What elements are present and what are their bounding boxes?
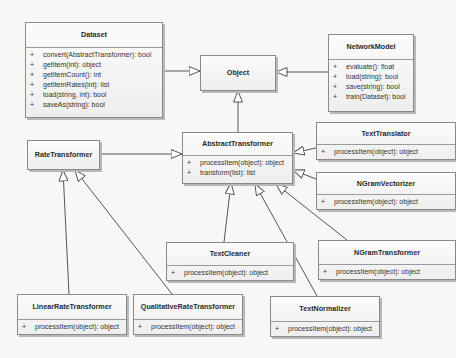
method: +processItem(object): object <box>275 324 379 334</box>
method: +processItem(object): object <box>171 268 293 278</box>
method: +load(string, int): bool <box>30 90 162 100</box>
method: +processItem(object): object <box>321 197 455 207</box>
class-name: Object <box>201 56 275 90</box>
method: +processItem(object): object <box>321 147 455 157</box>
method: +train(Dataset): bool <box>333 92 413 102</box>
class-members: +processItem(object): object <box>18 319 126 334</box>
method: +processItem(object): object <box>323 267 455 277</box>
edge-texttranslator-abstracttransformer <box>293 148 316 153</box>
class-qualitative-rate-transformer[interactable]: QualitativeRateTransformer +processItem(… <box>133 294 243 335</box>
class-rate-transformer[interactable]: RateTransformer <box>27 140 100 170</box>
method: +processItem(object): object <box>22 322 126 332</box>
method: +getItem(int): object <box>30 60 162 70</box>
class-members: +convert(AbstractTransformer): bool +get… <box>26 47 162 112</box>
class-dataset[interactable]: Dataset +convert(AbstractTransformer): b… <box>25 22 163 118</box>
class-ngram-vectorizer[interactable]: NGramVectorizer +processItem(object): ob… <box>316 172 456 210</box>
class-name: NGramVectorizer <box>317 173 455 194</box>
class-members: +processItem(object): object <box>317 144 455 159</box>
edge-linearrate-ratetransformer <box>63 170 69 294</box>
class-name: LinearRateTransformer <box>18 295 126 319</box>
class-object[interactable]: Object <box>200 55 276 91</box>
method: +transform(list): list <box>187 168 292 178</box>
class-name: NGramTransformer <box>319 241 455 264</box>
class-name: NetworkModel <box>329 35 413 59</box>
method: +getItemRates(int): list <box>30 80 162 90</box>
class-text-normalizer[interactable]: TextNormalizer +processItem(object): obj… <box>270 296 380 337</box>
method: +saveAs(string): bool <box>30 100 162 110</box>
method: +save(string): bool <box>333 82 413 92</box>
method: +evaluate(): float <box>333 62 413 72</box>
method: +load(string): bool <box>333 72 413 82</box>
class-name: Dataset <box>26 23 162 47</box>
class-members: +evaluate(): float +load(string): bool +… <box>329 59 413 104</box>
method: +getItemCount(): int <box>30 70 162 80</box>
class-linear-rate-transformer[interactable]: LinearRateTransformer +processItem(objec… <box>17 294 127 335</box>
class-text-cleaner[interactable]: TextCleaner +processItem(object): object <box>166 242 294 281</box>
edge-textcleaner-abstracttransformer <box>224 183 231 242</box>
class-members: +processItem(object): object <box>319 264 455 279</box>
class-name: TextCleaner <box>167 243 293 265</box>
method: +convert(AbstractTransformer): bool <box>30 50 162 60</box>
class-name: RateTransformer <box>28 141 99 169</box>
edge-ngramvectorizer-abstracttransformer <box>293 170 316 179</box>
class-members: +processItem(object): object <box>317 194 455 209</box>
class-name: AbstractTransformer <box>183 133 292 155</box>
method: +processItem(object): object <box>138 322 242 332</box>
method: +processItem(object): object <box>187 158 292 168</box>
class-name: TextTranslator <box>317 123 455 144</box>
class-members: +processItem(object): object <box>134 319 242 334</box>
class-ngram-transformer[interactable]: NGramTransformer +processItem(object): o… <box>318 240 456 280</box>
edge-qualitativerate-ratetransformer <box>75 170 172 294</box>
class-members: +processItem(object): object +transform(… <box>183 155 292 180</box>
class-abstract-transformer[interactable]: AbstractTransformer +processItem(object)… <box>182 132 293 184</box>
class-name: QualitativeRateTransformer <box>134 295 242 319</box>
class-members: +processItem(object): object <box>167 265 293 280</box>
class-text-translator[interactable]: TextTranslator +processItem(object): obj… <box>316 122 456 160</box>
class-network-model[interactable]: NetworkModel +evaluate(): float +load(st… <box>328 34 414 112</box>
class-name: TextNormalizer <box>271 297 379 321</box>
class-members: +processItem(object): object <box>271 321 379 336</box>
